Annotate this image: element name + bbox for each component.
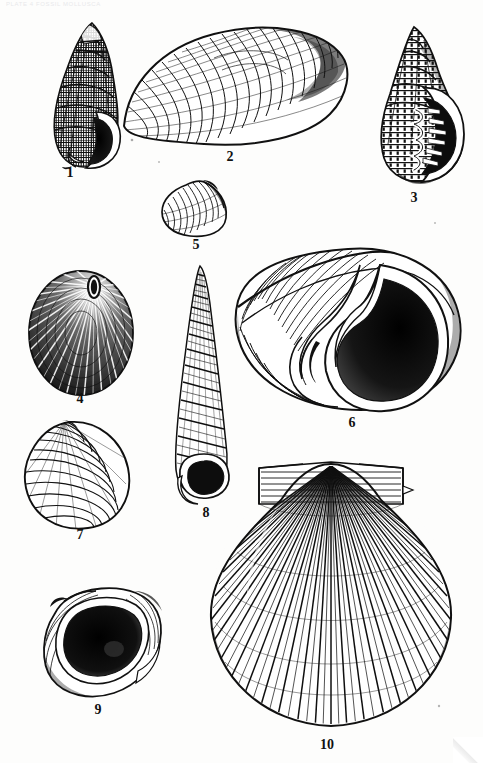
figure-6-illustration	[228, 243, 468, 418]
figure-6-number: 6	[338, 416, 366, 430]
figure-10-illustration	[203, 456, 458, 741]
figure-7-illustration	[18, 418, 138, 533]
figure-9-illustration	[38, 583, 166, 701]
figure-1-number: 1	[56, 166, 84, 180]
figure-9-number: 9	[84, 703, 112, 717]
figure-3-illustration	[366, 24, 482, 192]
page-corner-fold	[453, 737, 483, 763]
paper-speck	[158, 161, 160, 163]
plate-header-text: PLATE 4 FOSSIL MOLLUSCA	[6, 1, 306, 8]
figure-4-illustration	[22, 270, 140, 398]
illustration-plate: PLATE 4 FOSSIL MOLLUSCA	[0, 0, 483, 763]
figure-3-number: 3	[400, 191, 428, 205]
figure-2-illustration	[118, 18, 353, 153]
figure-5-illustration	[158, 178, 232, 240]
figure-7-number: 7	[66, 528, 94, 542]
figure-4-number: 4	[66, 392, 94, 406]
figure-2-number: 2	[216, 150, 244, 164]
figure-10-number: 10	[313, 738, 341, 752]
paper-speck-2	[434, 222, 436, 224]
figure-5-number: 5	[182, 238, 210, 252]
